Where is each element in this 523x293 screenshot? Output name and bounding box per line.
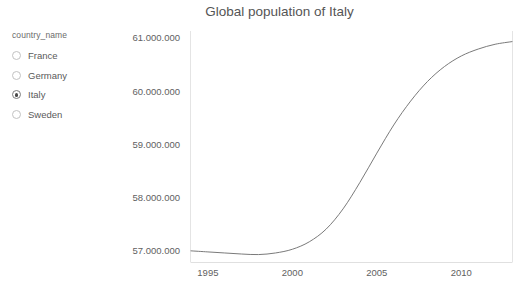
y-tick-label: 58.000.000	[108, 192, 180, 203]
y-tick-label: 61.000.000	[108, 32, 180, 43]
x-tick-label: 1995	[186, 267, 230, 278]
y-tick-label: 57.000.000	[108, 245, 180, 256]
line-series-italy	[191, 42, 512, 255]
x-tick-label: 2005	[355, 267, 399, 278]
y-tick-label: 60.000.000	[108, 86, 180, 97]
x-tick-label: 2000	[270, 267, 314, 278]
y-tick-label: 59.000.000	[108, 139, 180, 150]
axis-lines	[191, 31, 513, 263]
line-chart-svg	[0, 0, 523, 293]
x-tick-label: 2010	[439, 267, 483, 278]
chart-plot-area: 57.000.00058.000.00059.000.00060.000.000…	[0, 0, 523, 293]
